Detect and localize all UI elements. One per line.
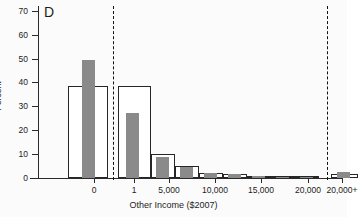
x-tick-6 <box>342 178 343 183</box>
y-tick-label-50: 50 <box>6 54 28 64</box>
y-tick-0 <box>32 178 38 179</box>
x-tick-label-5: 20,000 <box>295 185 321 195</box>
bar-solid-0 <box>82 60 95 178</box>
y-tick-label-70: 70 <box>6 6 28 16</box>
bar-solid-6 <box>252 176 265 178</box>
x-axis-title: Other Income ($2007) <box>0 200 347 210</box>
y-tick-label-0: 0 <box>6 173 28 183</box>
y-tick-label-40: 40 <box>6 77 28 87</box>
y-tick-label-60: 60 <box>6 30 28 40</box>
bar-solid-4 <box>204 173 217 178</box>
x-tick-1 <box>134 178 135 183</box>
x-tick-2 <box>169 178 170 183</box>
bar-solid-5 <box>228 174 241 178</box>
y-tick-label-20: 20 <box>6 125 28 135</box>
x-axis-line <box>30 178 342 179</box>
bar-series-container <box>38 6 338 178</box>
y-axis-title: Percent <box>0 81 3 110</box>
bar-solid-3 <box>180 167 193 178</box>
bar-solid-9 <box>337 172 350 178</box>
y-tick-label-10: 10 <box>6 149 28 159</box>
x-tick-3 <box>215 178 216 183</box>
y-tick-label-30: 30 <box>6 101 28 111</box>
bar-solid-7 <box>276 177 289 178</box>
bar-solid-1 <box>126 113 139 178</box>
x-tick-label-3: 10,000 <box>202 185 228 195</box>
x-tick-label-6: 20,000+ <box>327 185 358 195</box>
x-tick-4 <box>261 178 262 183</box>
bar-solid-2 <box>156 157 169 178</box>
x-tick-5 <box>308 178 309 183</box>
x-tick-label-1: 1 <box>132 185 137 195</box>
x-tick-label-2: 5,000 <box>158 185 179 195</box>
bar-solid-8 <box>300 177 313 178</box>
x-tick-label-4: 15,000 <box>248 185 274 195</box>
x-tick-0 <box>94 178 95 183</box>
x-tick-label-0: 0 <box>92 185 97 195</box>
